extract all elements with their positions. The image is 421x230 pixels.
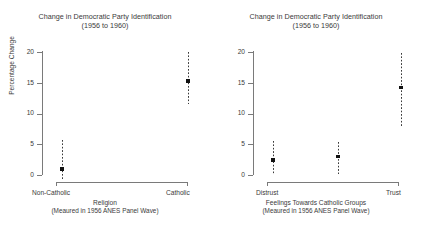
- y-tick-20: [248, 52, 253, 53]
- x-axis-title-main: Feelings Towards Catholic Groups: [266, 199, 366, 206]
- y-tick-10: [248, 114, 253, 115]
- y-tick-label-5: 5: [4, 141, 34, 148]
- panel-religion: Change in Democratic Party Identificatio…: [0, 0, 210, 230]
- panel-title-line1: Change in Democratic Party Identificatio…: [249, 12, 382, 21]
- data-point-non-catholic: [60, 167, 64, 171]
- y-axis-line: [42, 51, 43, 175]
- y-tick-20: [37, 52, 42, 53]
- y-tick-label-20: 20: [215, 49, 245, 56]
- y-tick-15: [37, 83, 42, 84]
- x-tick-trust: [398, 182, 399, 186]
- panel-title-line2: (1956 to 1960): [211, 21, 421, 30]
- panel-title: Change in Democratic Party Identificatio…: [0, 12, 210, 31]
- error-bar-non-catholic: [62, 140, 63, 179]
- y-tick-label-10: 10: [215, 110, 245, 117]
- data-point-middle: [336, 155, 340, 159]
- x-axis-title-sub: (Meaured in 1956 ANES Panel Wave): [0, 207, 210, 215]
- data-point-trust: [399, 86, 403, 90]
- error-bar-trust: [401, 53, 402, 127]
- x-tick-non-catholic: [56, 182, 57, 186]
- x-axis-line: [56, 182, 188, 183]
- y-tick-label-20: 20: [4, 49, 34, 56]
- panel-title-line1: Change in Democratic Party Identificatio…: [38, 12, 171, 21]
- y-tick-0: [37, 175, 42, 176]
- x-cat-label-catholic: Catholic: [166, 189, 190, 196]
- x-axis-title-sub: (Meaured in 1956 ANES Panel Wave): [211, 207, 421, 215]
- x-cat-label-non-catholic: Non-Catholic: [32, 189, 70, 196]
- panel-title-line2: (1956 to 1960): [0, 21, 210, 30]
- data-point-catholic: [186, 79, 190, 83]
- x-cat-label-trust: Trust: [386, 189, 401, 196]
- x-cat-label-distrust: Distrust: [256, 189, 278, 196]
- y-tick-label-0: 0: [215, 172, 245, 179]
- figure-container: Change in Democratic Party Identificatio…: [0, 0, 421, 230]
- y-tick-5: [248, 144, 253, 145]
- x-tick-distrust: [267, 182, 268, 186]
- y-tick-label-5: 5: [215, 141, 245, 148]
- y-tick-label-0: 0: [4, 172, 34, 179]
- data-point-distrust: [271, 158, 275, 162]
- y-axis-line: [253, 51, 254, 175]
- panel-feelings: Change in Democratic Party Identificatio…: [211, 0, 421, 230]
- y-tick-label-15: 15: [4, 80, 34, 87]
- x-tick-catholic: [187, 182, 188, 186]
- x-axis-title: Feelings Towards Catholic Groups (Meaure…: [211, 199, 421, 216]
- y-axis-title: Percentage Change: [8, 11, 15, 121]
- y-tick-15: [248, 83, 253, 84]
- y-tick-5: [37, 144, 42, 145]
- x-axis-line: [267, 182, 399, 183]
- y-tick-label-10: 10: [4, 110, 34, 117]
- y-tick-10: [37, 114, 42, 115]
- panel-title: Change in Democratic Party Identificatio…: [211, 12, 421, 31]
- y-tick-label-15: 15: [215, 80, 245, 87]
- y-tick-0: [248, 175, 253, 176]
- x-axis-title: Religion (Meaured in 1956 ANES Panel Wav…: [0, 199, 210, 216]
- x-axis-title-main: Religion: [93, 199, 117, 206]
